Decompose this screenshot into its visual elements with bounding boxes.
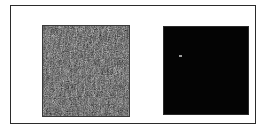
noise-texture-icon: [43, 26, 129, 116]
panel-black-image: [163, 26, 249, 115]
figure-page: [0, 0, 268, 131]
bright-speck-icon: [179, 55, 182, 57]
panel-black-label: [163, 26, 164, 27]
panel-noise-image: [42, 25, 130, 117]
outer-figure-frame: [10, 5, 256, 124]
